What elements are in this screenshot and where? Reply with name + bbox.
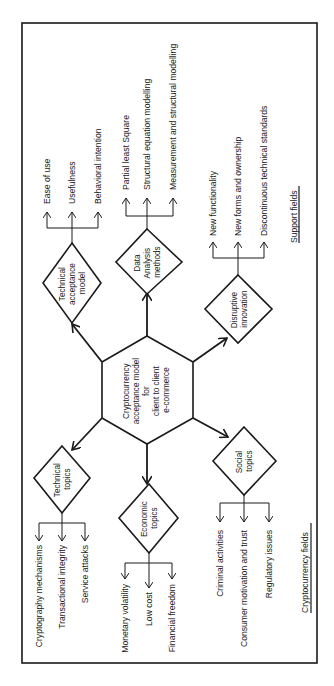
leaf-ease-of-use: Ease of use bbox=[42, 158, 52, 204]
leaf-new-functionality: New functionality bbox=[208, 170, 218, 236]
leaf-consumer-motivation-and-trust: Consumer motivation and trust bbox=[239, 529, 249, 647]
leaf-structural-equation-modelling: Structural equation modelling bbox=[142, 78, 152, 190]
cryptocurrency-fields-title: Cryptocurrency fields bbox=[300, 523, 311, 613]
svg-text:Cryptocurrency fields: Cryptocurrency fields bbox=[300, 532, 310, 613]
arrow-to-technical-topics bbox=[72, 418, 102, 450]
svg-text:Disruptive innovation: Disruptive innovation bbox=[230, 290, 249, 329]
arrow-to-disruptive-innovation bbox=[193, 338, 227, 362]
leaf-service-attacks: Service attacks bbox=[80, 545, 90, 603]
leaf-transactional-integrity: Transactional integrity bbox=[57, 544, 67, 628]
leaf-measurement-and-structural-modelling: Measurement and structural modelling bbox=[168, 44, 178, 190]
node-data-analysis-methods: Data Analysis methods Partial least Squa… bbox=[116, 44, 182, 294]
arrow-to-technical-acceptance-model bbox=[72, 324, 102, 362]
leaf-behavioral-intention: Behavioral intention bbox=[93, 128, 103, 204]
leaf-regulatory-issues: Regulatory issues bbox=[264, 530, 274, 598]
leaf-financial-freedom: Financial freedom bbox=[167, 584, 177, 652]
center-hexagon: Cryptocurrency acceptance model for clie… bbox=[102, 336, 193, 444]
node-technical-topics: Technical topics Cryptography mechanisms… bbox=[34, 446, 90, 647]
node-technical-acceptance-model: Technical acceptance model Ease of use U… bbox=[42, 128, 103, 323]
leaf-discontinuous-technical-standards: Discontinuous technical standards bbox=[259, 106, 269, 236]
node-social-topics: Social topics Criminal activities Consum… bbox=[213, 427, 276, 647]
leaf-usefulness: Usefulness bbox=[67, 161, 77, 204]
leaf-low-cost: Low cost bbox=[144, 591, 154, 626]
support-fields-title: Support fields bbox=[289, 186, 299, 243]
leaf-cryptography-mechanisms: Cryptography mechanisms bbox=[34, 545, 44, 647]
svg-text:Social topics: Social topics bbox=[235, 449, 254, 474]
leaf-partial-least-square: Partial least Square bbox=[121, 115, 131, 190]
leaf-monetary-volatility: Monetary volatility bbox=[120, 583, 130, 652]
svg-text:Support fields: Support fields bbox=[289, 190, 299, 243]
diagram-canvas: Cryptocurrency acceptance model for clie… bbox=[0, 0, 334, 686]
leaf-criminal-activities: Criminal activities bbox=[215, 530, 225, 597]
node-economic-topics: Economic topics Monetary volatility Low … bbox=[119, 484, 178, 653]
node-disruptive-innovation: Disruptive innovation New functionality … bbox=[205, 106, 272, 343]
arrow-to-social-topics bbox=[193, 418, 228, 437]
leaf-new-forms-and-ownership: New forms and ownership bbox=[233, 136, 243, 236]
